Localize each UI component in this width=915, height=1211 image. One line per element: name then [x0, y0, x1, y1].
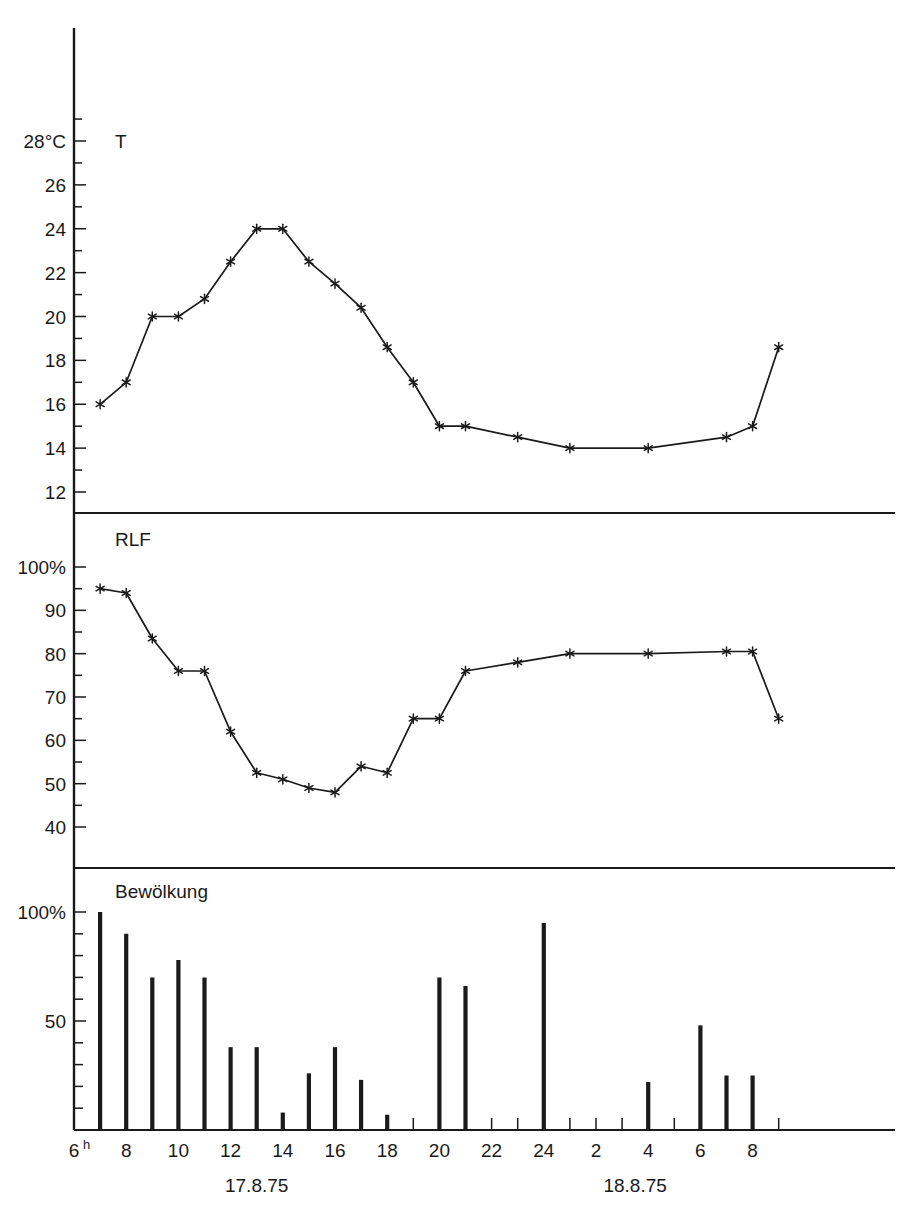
x-tick-label-group-2: 2 — [591, 1140, 602, 1161]
x-tick-label-superscript: h — [83, 1137, 90, 1152]
x-tick-label-20: 20 — [429, 1140, 450, 1161]
date-label-2: 18.8.75 — [603, 1175, 666, 1196]
x-tick-label-16: 16 — [324, 1140, 345, 1161]
y-tick-label-temp-22: 22 — [45, 263, 66, 284]
y-tick-label-rlf-80: 80 — [45, 644, 66, 665]
y-tick-label-temp-18: 18 — [45, 350, 66, 371]
y-tick-label-rlf-70: 70 — [45, 687, 66, 708]
x-tick-label-14: 14 — [272, 1140, 294, 1161]
y-tick-label-rlf-60: 60 — [45, 730, 66, 751]
y-tick-label-rlf-50: 50 — [45, 774, 66, 795]
chart-canvas: 28°C2624222018161412T100%908070605040RLF… — [0, 0, 915, 1211]
y-tick-label-temp-12: 12 — [45, 482, 66, 503]
panel-title-temperature: T — [115, 131, 127, 152]
x-tick-label-18: 18 — [377, 1140, 398, 1161]
x-tick-label-22: 22 — [481, 1140, 502, 1161]
y-tick-label-temp-26: 26 — [45, 175, 66, 196]
x-tick-label-group-24: 24 — [533, 1140, 555, 1161]
y-tick-label-rlf-100: 100% — [17, 557, 66, 578]
chart-background — [0, 0, 915, 1211]
y-tick-label-cloud-100: 100% — [17, 902, 66, 923]
x-tick-label-group-8: 8 — [121, 1140, 132, 1161]
x-tick-label-28: 4 — [643, 1140, 654, 1161]
x-tick-label-group-12: 12 — [220, 1140, 241, 1161]
y-tick-label-temp-14: 14 — [45, 438, 67, 459]
x-tick-label-group-22: 22 — [481, 1140, 502, 1161]
x-tick-label-24: 24 — [533, 1140, 555, 1161]
x-tick-label-group-6: 6 — [695, 1140, 706, 1161]
x-tick-label-group-10: 10 — [168, 1140, 189, 1161]
y-tick-label-cloud-50: 50 — [45, 1011, 66, 1032]
weather-chart-figure: 28°C2624222018161412T100%908070605040RLF… — [0, 0, 915, 1211]
x-tick-label-26: 2 — [591, 1140, 602, 1161]
x-tick-label-8: 8 — [121, 1140, 132, 1161]
x-tick-label-32: 8 — [747, 1140, 758, 1161]
panel-title-humidity: RLF — [115, 529, 151, 550]
x-tick-label-group-20: 20 — [429, 1140, 450, 1161]
x-tick-label-group-16: 16 — [324, 1140, 345, 1161]
y-tick-label-temp-20: 20 — [45, 307, 66, 328]
x-tick-label-group-8: 8 — [747, 1140, 758, 1161]
x-tick-label-30: 6 — [695, 1140, 706, 1161]
x-tick-label-6: 6 — [69, 1140, 80, 1161]
x-tick-label-group-4: 4 — [643, 1140, 654, 1161]
x-tick-label-group-14: 14 — [272, 1140, 294, 1161]
x-tick-label-10: 10 — [168, 1140, 189, 1161]
y-tick-label-rlf-40: 40 — [45, 817, 66, 838]
y-tick-label-temp-24: 24 — [45, 219, 67, 240]
y-tick-label-temp-28: 28°C — [24, 131, 66, 152]
panel-title-cloudiness: Bewölkung — [115, 881, 208, 902]
x-tick-label-12: 12 — [220, 1140, 241, 1161]
x-tick-label-group-18: 18 — [377, 1140, 398, 1161]
y-tick-label-rlf-90: 90 — [45, 600, 66, 621]
date-label-1: 17.8.75 — [225, 1175, 288, 1196]
y-tick-label-temp-16: 16 — [45, 394, 66, 415]
